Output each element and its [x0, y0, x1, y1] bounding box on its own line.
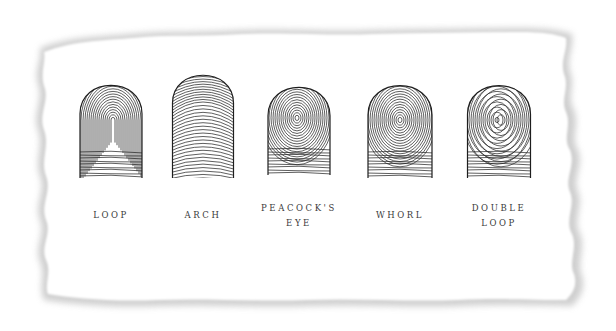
label-line: PEACOCK'S — [244, 201, 354, 216]
label-double-loop: DOUBLELOOP — [444, 201, 554, 231]
label-line: ARCH — [148, 208, 258, 223]
label-arch: ARCH — [148, 208, 258, 223]
label-line: EYE — [244, 216, 354, 231]
torn-paper-illustration — [0, 0, 616, 331]
label-line: LOOP — [444, 216, 554, 231]
label-line: WHORL — [345, 208, 455, 223]
label-peacocks-eye: PEACOCK'SEYE — [244, 201, 354, 231]
label-whorl: WHORL — [345, 208, 455, 223]
label-line: DOUBLE — [444, 201, 554, 216]
